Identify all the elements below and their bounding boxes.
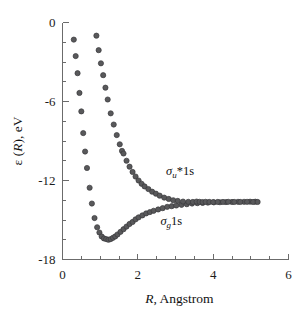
x-tick-label: 2 xyxy=(135,267,142,282)
data-point xyxy=(79,109,84,114)
chart-figure: 0-6-12-180246 σu*1sσg1s R, Angstromε (R)… xyxy=(0,0,308,311)
data-point xyxy=(101,73,106,78)
data-point xyxy=(73,53,78,58)
data-point xyxy=(83,149,88,154)
data-point xyxy=(121,151,126,156)
data-point xyxy=(244,199,249,204)
x-tick-label: 6 xyxy=(285,267,292,282)
data-point xyxy=(103,85,108,90)
data-point xyxy=(105,97,110,102)
data-point xyxy=(232,199,237,204)
annotation-sigma-g: σg1s xyxy=(160,214,182,231)
data-point xyxy=(87,185,92,190)
y-tick-label: -12 xyxy=(38,173,55,188)
data-point xyxy=(238,199,243,204)
data-point xyxy=(220,199,225,204)
data-point xyxy=(108,111,113,116)
data-point xyxy=(175,198,180,203)
data-point xyxy=(75,71,80,76)
y-axis-title: ε (R), eV xyxy=(10,116,25,165)
x-tick-label: 0 xyxy=(59,267,66,282)
data-point xyxy=(94,33,99,38)
y-tick-label: -18 xyxy=(38,252,55,267)
data-point xyxy=(84,165,89,170)
series-sigma-g-1s xyxy=(71,37,258,242)
data-point xyxy=(95,225,100,230)
data-point xyxy=(124,158,129,163)
y-tick-label: 0 xyxy=(49,15,56,30)
data-point xyxy=(226,199,231,204)
data-point xyxy=(130,169,135,174)
data-series xyxy=(71,33,260,242)
y-tick-label: -6 xyxy=(45,94,56,109)
x-tick-label: 4 xyxy=(210,267,217,282)
plot-canvas: 0-6-12-180246 σu*1sσg1s R, Angstromε (R)… xyxy=(0,0,308,311)
x-axis-title: R, Angstrom xyxy=(144,291,214,306)
data-point xyxy=(114,132,119,137)
annotation-sigma-u-star: σu*1s xyxy=(166,164,194,181)
data-point xyxy=(180,199,185,204)
data-point xyxy=(71,37,76,42)
series-sigma-u-star-1s xyxy=(94,33,260,205)
data-point xyxy=(127,164,132,169)
data-point xyxy=(92,215,97,220)
data-point xyxy=(96,48,101,53)
data-point xyxy=(215,199,220,204)
data-point xyxy=(77,90,82,95)
data-point xyxy=(255,199,260,204)
data-point xyxy=(98,61,103,66)
data-point xyxy=(81,131,86,136)
data-point xyxy=(89,201,94,206)
data-point xyxy=(111,122,116,127)
data-point xyxy=(117,142,122,147)
axis-titles: R, Angstromε (R), eV xyxy=(10,116,214,305)
